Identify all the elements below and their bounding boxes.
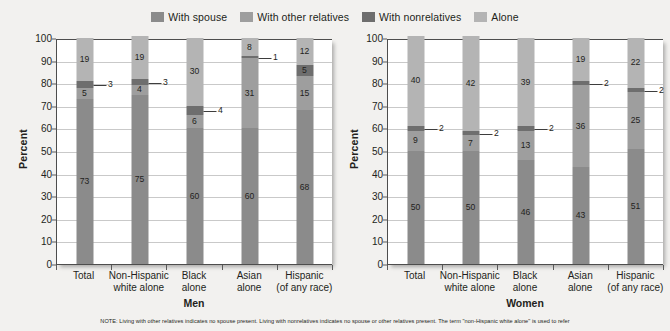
bar-segment-value: 68 [296, 183, 313, 192]
x-axis-category-label: Non-Hispanicwhite alone [109, 270, 169, 293]
bar-segment-value: 3 [163, 78, 168, 87]
x-axis-tick-mark [387, 265, 388, 270]
y-axis-tick-label: 10 [372, 237, 383, 247]
y-axis-tick-label: 50 [372, 147, 383, 157]
bar-segment-value: 73 [76, 177, 93, 186]
x-axis-category-line: (of any race) [607, 282, 663, 294]
bar-segment[interactable] [462, 131, 479, 136]
bar-segment-value: 22 [627, 58, 644, 67]
bar-segment[interactable] [76, 81, 93, 88]
callout-line [203, 111, 216, 112]
bar-segment[interactable] [186, 106, 203, 115]
stacked-bar[interactable]: 4336219 [572, 39, 589, 264]
legend-label-with-other-relatives: With other relatives [257, 11, 349, 23]
bar-segment[interactable] [407, 126, 424, 131]
y-axis-tick-label: 100 [366, 34, 383, 44]
y-axis-label-text: Percent [17, 129, 29, 169]
bar-segment-value: 8 [241, 43, 258, 52]
bar-segment[interactable] [131, 79, 148, 86]
bar-segment-value: 4 [131, 85, 148, 94]
bar-segment-value: 51 [627, 202, 644, 211]
x-axis-category-line: Total [404, 270, 425, 282]
x-axis-category-line: Black [513, 270, 537, 282]
bar-segment-value: 19 [76, 55, 93, 64]
x-axis-category-line: alone [237, 282, 262, 294]
stacked-bar[interactable]: 6815512 [296, 39, 313, 264]
x-axis-category-line: Non-Hispanic [440, 270, 500, 282]
y-axis-tick-label: 70 [41, 102, 52, 112]
legend-swatch-with-nonrelatives [362, 12, 375, 22]
bar-segment-value: 5 [76, 89, 93, 98]
bar-segment-value: 1 [273, 53, 278, 62]
x-axis-category-line: Asian [237, 270, 262, 282]
x-axis-category-line: white alone [109, 282, 169, 294]
x-axis-category-label: Asianalone [237, 270, 262, 293]
chart-panel-women: Percent010203040506070809010050924050724… [345, 33, 665, 305]
x-axis-category-line: Asian [568, 270, 593, 282]
y-axis-tick-label: 30 [41, 192, 52, 202]
x-axis-category-line: alone [513, 282, 537, 294]
callout-line [258, 58, 271, 59]
x-axis-category-line: Total [73, 270, 94, 282]
stacked-bar[interactable]: 5125222 [627, 39, 644, 264]
bar-segment-value: 4 [218, 106, 223, 115]
bar-segment[interactable] [241, 56, 258, 58]
stacked-bar[interactable]: 507242 [462, 39, 479, 264]
x-axis-category-label: Non-Hispanicwhite alone [440, 270, 500, 293]
bar-segment-value: 15 [296, 89, 313, 98]
y-axis-tick-label: 30 [372, 192, 383, 202]
legend-swatch-with-other-relatives [240, 12, 253, 22]
y-axis-ticks: 0102030405060708090100 [365, 39, 387, 265]
x-axis-tick-mark [222, 265, 223, 270]
x-axis-category-label: Hispanic(of any race) [276, 270, 332, 293]
bar-segment-value: 2 [659, 86, 664, 95]
callout-line [424, 129, 437, 130]
y-axis-tick-label: 70 [372, 102, 383, 112]
callout-line [534, 129, 547, 130]
x-axis-category-line: Hispanic [276, 270, 332, 282]
bar-segment-value: 7 [462, 139, 479, 148]
x-axis-category-line: Hispanic [607, 270, 663, 282]
callout-line [93, 85, 106, 86]
bar-segment[interactable] [572, 81, 589, 86]
stacked-bar[interactable]: 735319 [76, 39, 93, 264]
x-axis-category-line: Non-Hispanic [109, 270, 169, 282]
bar-segment-value: 46 [517, 208, 534, 217]
legend-item-with-spouse: With spouse [151, 11, 227, 23]
plot-canvas: 509240507242461323943362195125222 [387, 39, 663, 265]
bar-segment-value: 30 [186, 67, 203, 76]
callout-line [479, 134, 492, 135]
plot-area: 0102030405060708090100735319754319606430… [34, 39, 332, 265]
bar-segment-value: 40 [407, 76, 424, 85]
bar-segment[interactable] [627, 88, 644, 93]
legend-label-alone: Alone [491, 11, 518, 23]
bar-segment-value: 43 [572, 211, 589, 220]
legend-swatch-alone [474, 12, 487, 22]
stacked-bar[interactable]: 509240 [407, 39, 424, 264]
legend-item-with-nonrelatives: With nonrelatives [362, 11, 461, 23]
stacked-bar[interactable]: 603118 [241, 39, 258, 264]
y-axis-tick-label: 90 [372, 57, 383, 67]
legend-label-with-spouse: With spouse [168, 11, 227, 23]
bar-segment-value: 2 [549, 124, 554, 133]
y-axis-tick-label: 50 [41, 147, 52, 157]
bar-segment[interactable] [517, 126, 534, 131]
bar-segment-value: 9 [407, 136, 424, 145]
panel-title: Men [56, 297, 332, 309]
x-axis-category-label: Total [73, 270, 94, 282]
callout-line [589, 84, 602, 85]
plot-area: 0102030405060708090100509240507242461323… [365, 39, 663, 265]
panel-title: Women [387, 297, 663, 309]
y-axis-tick-label: 40 [41, 170, 52, 180]
bar-segment-value: 75 [131, 175, 148, 184]
x-axis-tick-mark [56, 265, 57, 270]
stacked-bar[interactable]: 4613239 [517, 39, 534, 264]
y-axis-tick-label: 60 [372, 124, 383, 134]
plot-canvas: 7353197543196064306031186815512 [56, 39, 332, 265]
bar-segment-value: 39 [517, 78, 534, 87]
stacked-bar[interactable]: 606430 [186, 39, 203, 264]
stacked-bar[interactable]: 754319 [131, 39, 148, 264]
y-axis-tick-label: 100 [35, 34, 52, 44]
y-axis-tick-label: 80 [372, 79, 383, 89]
x-axis-category-label: Total [404, 270, 425, 282]
